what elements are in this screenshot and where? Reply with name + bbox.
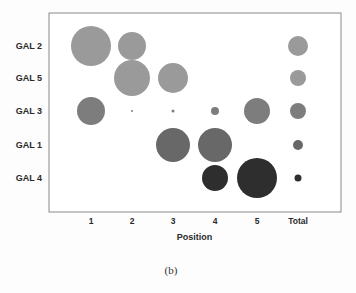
bubble: [77, 97, 105, 125]
bubble: [211, 107, 219, 115]
bubble: [71, 26, 111, 66]
y-tick-label: GAL 1: [16, 140, 42, 150]
x-axis-labels: 12345Total: [89, 216, 308, 226]
y-axis-labels: GAL 2GAL 5GAL 3GAL 1GAL 4: [16, 41, 42, 183]
bubble: [114, 60, 150, 96]
bubble: [131, 110, 133, 112]
bubble: [202, 165, 228, 191]
x-tick-label: 2: [130, 216, 135, 226]
bubble: [293, 140, 303, 150]
y-tick-label: GAL 2: [16, 41, 42, 51]
x-tick-label: 4: [213, 216, 218, 226]
bubble: [290, 103, 306, 119]
bubble: [244, 98, 270, 124]
bubble: [237, 158, 277, 198]
bubble: [295, 175, 302, 182]
bubble: [198, 128, 232, 162]
bubble: [158, 63, 188, 93]
x-tick-label: Total: [288, 216, 308, 226]
bubble: [118, 32, 146, 60]
y-tick-label: GAL 3: [16, 106, 42, 116]
x-tick-label: 3: [171, 216, 176, 226]
figure-caption: (b): [165, 264, 178, 277]
y-tick-label: GAL 5: [16, 73, 42, 83]
bubble: [288, 36, 308, 56]
x-axis-title: Position: [177, 232, 213, 242]
x-tick-label: 1: [89, 216, 94, 226]
y-tick-label: GAL 4: [16, 173, 42, 183]
x-tick-label: 5: [255, 216, 260, 226]
bubble: [290, 70, 306, 86]
bubble-chart: GAL 2GAL 5GAL 3GAL 1GAL 4 12345Total Pos…: [0, 0, 356, 293]
bubble: [172, 110, 175, 113]
bubble: [156, 128, 190, 162]
